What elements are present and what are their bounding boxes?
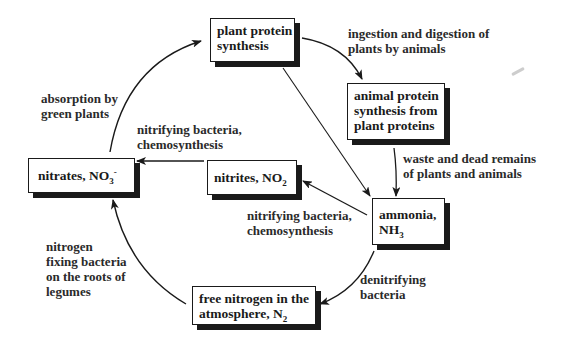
label-fixation: nitrogen fixing bacteria on the roots of…	[46, 239, 127, 299]
label-nitrification-2: nitrifying bacteria, chemosynthesis	[137, 122, 242, 152]
label-line: nitrogen	[46, 239, 127, 254]
nitrogen-cycle-diagram: plant protein synthesis animal protein s…	[0, 0, 567, 349]
node-nitrites: nitrites, NO2	[207, 160, 297, 195]
label-line: green plants	[41, 106, 118, 121]
label-line: denitrifying	[360, 272, 426, 287]
node-free-nitrogen: free nitrogen in the atmosphere, N2	[192, 286, 316, 325]
label-line: of plants and animals	[403, 166, 536, 181]
node-text: NH3	[379, 222, 438, 237]
label-absorption: absorption by green plants	[41, 91, 118, 121]
node-text: nitrites, NO2	[214, 170, 287, 185]
label-line: nitrifying bacteria,	[247, 208, 352, 223]
node-animal-protein-synthesis: animal protein synthesis from plant prot…	[347, 83, 445, 140]
node-plant-protein-synthesis: plant protein synthesis	[210, 18, 295, 62]
label-line: plants by animals	[348, 41, 489, 56]
label-line: on the roots of	[46, 269, 127, 284]
node-nitrates: nitrates, NO3-	[28, 158, 135, 193]
formula-base: atmosphere, N	[199, 306, 283, 321]
label-line: ingestion and digestion of	[348, 26, 489, 41]
label-ingestion: ingestion and digestion of plants by ani…	[348, 26, 489, 56]
node-text: ammonia,	[379, 207, 438, 222]
formula-base: nitrites, NO	[214, 170, 282, 185]
arrow-waste	[394, 148, 396, 196]
formula-subscript: 3	[109, 176, 114, 186]
node-text: plant proteins	[354, 118, 438, 133]
node-text: free nitrogen in the	[199, 291, 309, 306]
formula-base: nitrates, NO	[38, 168, 109, 183]
node-text: nitrates, NO3-	[38, 168, 117, 183]
node-text: synthesis	[217, 38, 288, 53]
formula-subscript: 2	[283, 314, 288, 324]
label-line: absorption by	[41, 91, 118, 106]
node-text: atmosphere, N2	[199, 306, 309, 321]
label-waste: waste and dead remains of plants and ani…	[403, 151, 536, 181]
node-text: animal protein	[354, 88, 438, 103]
label-line: legumes	[46, 284, 127, 299]
formula-subscript: 2	[282, 178, 287, 188]
label-line: nitrifying bacteria,	[137, 122, 242, 137]
label-line: chemosynthesis	[137, 137, 242, 152]
label-denitrification: denitrifying bacteria	[360, 272, 426, 302]
label-line: chemosynthesis	[247, 223, 352, 238]
label-nitrification-1: nitrifying bacteria, chemosynthesis	[247, 208, 352, 238]
formula-charge: -	[114, 167, 117, 177]
formula-subscript: 3	[399, 230, 404, 240]
label-line: bacteria	[360, 287, 426, 302]
node-ammonia: ammonia, NH3	[372, 198, 445, 245]
node-text: plant protein	[217, 23, 288, 38]
formula-base: NH	[379, 222, 399, 237]
label-line: fixing bacteria	[46, 254, 127, 269]
node-text: synthesis from	[354, 103, 438, 118]
label-line: waste and dead remains	[403, 151, 536, 166]
